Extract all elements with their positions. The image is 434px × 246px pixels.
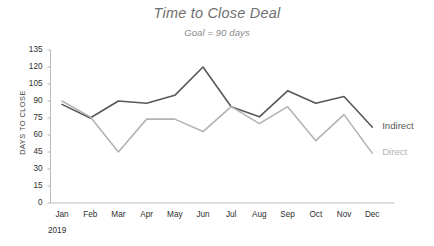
chart-container: Time to Close Deal Goal = 90 days DAYS T… (0, 0, 434, 246)
series-label-indirect: Indirect (382, 120, 413, 131)
plot-area (0, 0, 434, 246)
series-line-indirect (62, 67, 372, 127)
series-label-direct: Direct (382, 146, 407, 157)
series-line-direct (62, 101, 372, 153)
